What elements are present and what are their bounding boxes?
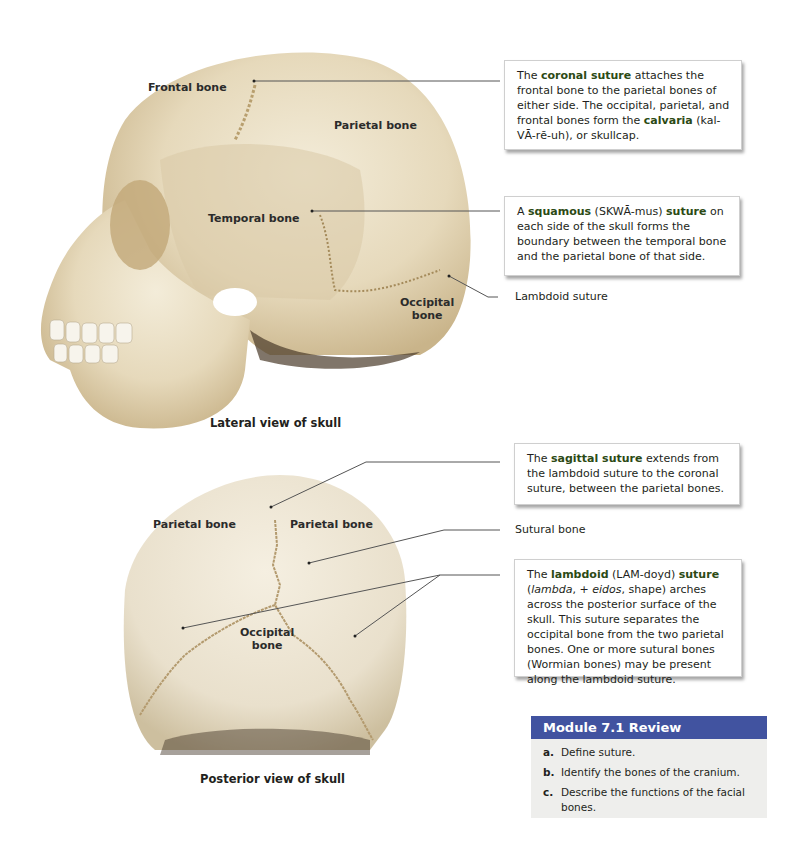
- lateral-skull-image: [30, 40, 480, 430]
- term-calvaria: calvaria: [644, 114, 693, 127]
- review-title: Module 7.1 Review: [531, 716, 767, 739]
- term-suture: suture: [679, 568, 719, 581]
- caption-posterior-view: Posterior view of skull: [200, 772, 345, 786]
- module-review-box: Module 7.1 Review a. Define suture. b. I…: [531, 716, 767, 818]
- caption-lateral-view: Lateral view of skull: [210, 416, 341, 430]
- label-sutural-bone: Sutural bone: [515, 523, 586, 536]
- review-item: b. Identify the bones of the cranium.: [543, 765, 759, 780]
- label-occipital-line1: Occipital: [400, 296, 454, 309]
- label-temporal-bone: Temporal bone: [208, 212, 300, 225]
- callout-squamous-suture: A squamous (SKWĀ-mus) suture on each sid…: [504, 196, 740, 276]
- callout-lambdoid-suture: The lambdoid (LAM-doyd) suture (lambda, …: [514, 559, 742, 677]
- term-suture: suture: [666, 205, 706, 218]
- callout-coronal-suture: The coronal suture attaches the frontal …: [504, 60, 742, 150]
- label-occipital-bone: Occipital bone: [400, 296, 454, 322]
- label-lambdoid-suture: Lambdoid suture: [515, 290, 608, 303]
- label-occipital-posterior: Occipital bone: [240, 626, 294, 652]
- review-item: a. Define suture.: [543, 745, 759, 760]
- label-occipital-line1: Occipital: [240, 626, 294, 639]
- label-frontal-bone: Frontal bone: [148, 81, 227, 94]
- label-occipital-line2: bone: [240, 639, 294, 652]
- label-parietal-left: Parietal bone: [153, 518, 236, 531]
- label-parietal-right: Parietal bone: [290, 518, 373, 531]
- review-item: c. Describe the functions of the facial …: [543, 785, 759, 815]
- term-coronal-suture: coronal suture: [541, 69, 631, 82]
- label-parietal-bone: Parietal bone: [334, 119, 417, 132]
- label-occipital-line2: bone: [400, 309, 454, 322]
- term-sagittal-suture: sagittal suture: [551, 452, 643, 465]
- term-squamous: squamous: [528, 205, 591, 218]
- posterior-skull-image: [115, 470, 415, 760]
- term-lambdoid: lambdoid: [551, 568, 609, 581]
- review-list: a. Define suture. b. Identify the bones …: [531, 739, 767, 815]
- callout-sagittal-suture: The sagittal suture extends from the lam…: [514, 443, 740, 505]
